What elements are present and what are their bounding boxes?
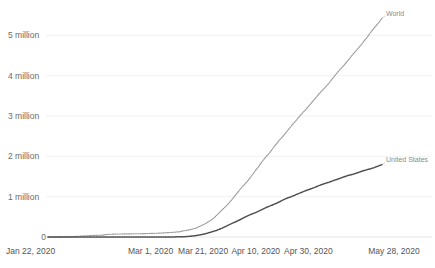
series-label-world: World	[386, 10, 404, 17]
series-line-world	[48, 18, 382, 237]
line-chart: 01 million2 million3 million4 million5 m…	[0, 0, 435, 268]
chart-container: 01 million2 million3 million4 million5 m…	[0, 0, 435, 268]
series-inline-labels-group: WorldUnited States	[382, 10, 429, 165]
x-tick-label: Mar 1, 2020	[128, 246, 174, 256]
y-tick-label: 4 million	[8, 71, 39, 81]
x-tick-label: Jan 22, 2020	[6, 246, 55, 256]
y-tick-label: 0	[41, 232, 46, 242]
y-tick-label: 2 million	[8, 151, 39, 161]
y-axis-labels-group: 01 million2 million3 million4 million5 m…	[8, 30, 46, 242]
x-tick-label: Apr 30, 2020	[284, 246, 333, 256]
y-tick-label: 1 million	[8, 192, 39, 202]
series-group	[48, 18, 382, 237]
series-label-leader	[382, 163, 385, 165]
series-label-leader	[382, 16, 385, 18]
x-tick-label: Mar 21, 2020	[178, 246, 228, 256]
series-label-united-states: United States	[386, 156, 429, 163]
y-tick-label: 3 million	[8, 111, 39, 121]
gridlines-group	[46, 35, 432, 237]
series-line-united-states	[48, 165, 382, 237]
x-tick-label: May 28, 2020	[368, 246, 420, 256]
x-axis-labels-group: Jan 22, 2020Mar 1, 2020Mar 21, 2020Apr 1…	[6, 246, 420, 256]
y-tick-label: 5 million	[8, 30, 39, 40]
x-tick-label: Apr 10, 2020	[231, 246, 280, 256]
